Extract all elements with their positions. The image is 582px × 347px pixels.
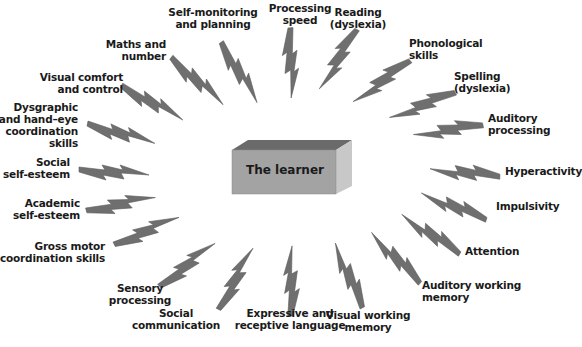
bolt-social-self-esteem <box>79 165 149 180</box>
factor-label-sensory-processing: Sensory processing <box>109 282 171 306</box>
bolt-social-communication <box>216 248 253 310</box>
bolt-auditory-working-memory <box>372 232 422 285</box>
bolt-dysgraphic <box>87 121 155 143</box>
learner-box-top <box>232 140 352 150</box>
bolt-maths <box>170 55 223 104</box>
bolt-processing-speed <box>282 28 298 98</box>
factor-label-maths: Maths and number <box>106 38 166 62</box>
factor-label-phonological: Phonological skills <box>409 37 483 61</box>
factor-label-impulsivity: Impulsivity <box>496 200 559 212</box>
factor-label-auditory-working-memory: Auditory working memory <box>422 279 521 303</box>
bolt-attention <box>402 214 461 256</box>
factor-label-visual-comfort: Visual comfort and control <box>40 71 123 95</box>
bolt-phonological <box>353 59 412 102</box>
factor-label-gross-motor: Gross motor coordination skills <box>0 240 105 264</box>
factor-label-spelling: Spelling (dyslexia) <box>454 70 510 94</box>
factor-label-social-self-esteem: Social self-esteem <box>3 156 70 180</box>
factor-label-expressive-receptive-language: Expressive and receptive language <box>235 307 346 331</box>
factor-label-social-communication: Social communication <box>132 307 220 331</box>
bolt-auditory-processing <box>413 121 483 139</box>
factor-label-processing-speed: Processing speed <box>269 2 332 26</box>
factor-label-auditory-processing: Auditory processing <box>488 112 550 136</box>
bolt-impulsivity <box>421 193 487 222</box>
bolt-expressive-receptive-language <box>284 246 300 316</box>
factor-label-reading: Reading (dyslexia) <box>330 6 386 30</box>
factor-label-dysgraphic: Dysgraphic and hand–eye coordination ski… <box>0 101 78 149</box>
factor-label-attention: Attention <box>465 245 519 257</box>
bolt-spelling <box>390 91 457 118</box>
bolt-visual-comfort <box>121 83 183 120</box>
factor-label-hyperactivity: Hyperactivity <box>505 165 582 177</box>
bolt-academic-self-esteem <box>86 196 156 214</box>
learner-label: The learner <box>234 163 336 177</box>
factor-label-academic-self-esteem: Academic self-esteem <box>13 197 80 221</box>
bolt-reading <box>319 28 359 88</box>
factor-label-self-monitoring: Self-monitoring and planning <box>168 6 257 30</box>
bolt-gross-motor <box>113 217 179 246</box>
bolt-hyperactivity <box>430 165 500 180</box>
bolt-visual-working-memory <box>335 243 364 309</box>
bolt-self-monitoring <box>219 41 257 103</box>
